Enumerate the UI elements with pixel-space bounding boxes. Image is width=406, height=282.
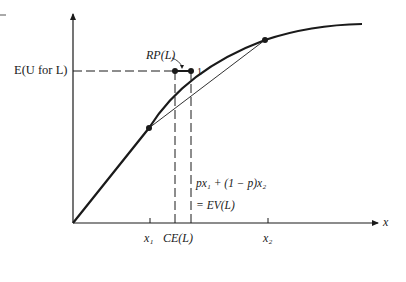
upper-outcome-point — [262, 37, 268, 43]
x-axis-text: x — [383, 215, 388, 229]
point-one-label: 1 — [197, 67, 202, 77]
expected-utility-text: E(U for L) — [14, 63, 67, 77]
x1-text: x₁ — [144, 231, 154, 245]
ev-equals-text: = EV(L) — [196, 199, 235, 211]
expected-value-point — [188, 68, 194, 74]
x-axis-label: x — [383, 216, 388, 228]
certainty-equivalent-point — [172, 68, 178, 74]
utility-diagram — [0, 0, 406, 282]
expected-value-formula-line1: px₁ + (1 − p)x₂ — [196, 178, 266, 190]
utility-curve — [73, 24, 362, 223]
risk-premium-label: RP(L) — [146, 49, 175, 61]
lower-outcome-point — [146, 125, 152, 131]
point-one-text: 1 — [197, 66, 202, 77]
x2-text: x₂ — [263, 231, 273, 245]
certainty-equivalent-label: CE(L) — [163, 232, 193, 244]
expected-value-formula-line2: = EV(L) — [196, 200, 235, 212]
expected-utility-label: E(U for L) — [14, 64, 67, 77]
x2-label: x₂ — [263, 232, 273, 244]
risk-premium-arrowhead — [180, 65, 184, 69]
ev-formula-text: px₁ + (1 − p)x₂ — [196, 177, 266, 189]
ce-text: CE(L) — [163, 231, 193, 245]
risk-premium-text: RP(L) — [146, 48, 175, 62]
x1-label: x₁ — [144, 232, 154, 244]
